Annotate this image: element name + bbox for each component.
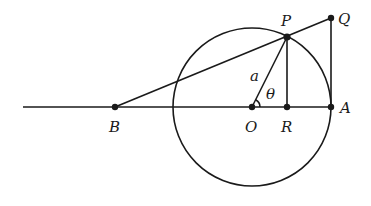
angle-theta-arc bbox=[256, 100, 260, 107]
point-Q bbox=[328, 15, 334, 21]
label-A: A bbox=[338, 99, 351, 117]
label-angle-theta: θ bbox=[266, 85, 275, 103]
point-R bbox=[284, 104, 290, 110]
label-radius-a: a bbox=[250, 67, 259, 85]
label-R: R bbox=[280, 118, 292, 136]
point-B bbox=[112, 104, 118, 110]
label-O: O bbox=[245, 118, 257, 136]
point-P bbox=[283, 33, 290, 40]
point-A bbox=[328, 104, 334, 110]
label-P: P bbox=[280, 12, 292, 30]
label-B: B bbox=[108, 118, 120, 136]
geometry-diagram: B O R A P Q a θ bbox=[0, 0, 371, 206]
line-BQ bbox=[115, 18, 331, 107]
point-O bbox=[249, 104, 255, 110]
label-Q: Q bbox=[338, 10, 350, 28]
diagram-canvas: B O R A P Q a θ bbox=[0, 0, 371, 206]
